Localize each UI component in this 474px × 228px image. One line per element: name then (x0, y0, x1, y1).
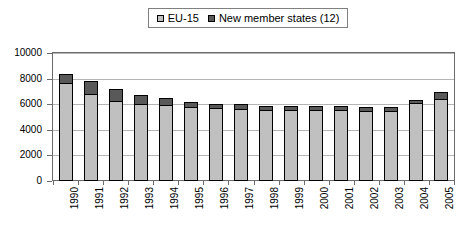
bar-segment-eu15 (334, 111, 348, 181)
bar-segment-eu15 (59, 84, 73, 181)
bar-group (334, 106, 348, 181)
bar-segment-new-member-states (109, 89, 123, 102)
x-tick-mark (153, 181, 154, 185)
x-tick-mark (404, 181, 405, 185)
x-tick-label: 2003 (395, 187, 405, 209)
bar-segment-eu15 (159, 106, 173, 181)
bar-segment-new-member-states (134, 95, 148, 105)
bar-segment-eu15 (184, 108, 198, 181)
x-tick-label: 1998 (270, 187, 280, 209)
bar-group (434, 92, 448, 181)
y-axis: 1000080006000400020000 (0, 52, 48, 181)
x-tick-label: 2002 (370, 187, 380, 209)
x-tick-label: 2001 (345, 187, 355, 209)
legend-label-eu15: EU-15 (168, 13, 199, 24)
x-tick-mark (329, 181, 330, 185)
bar-group (359, 107, 373, 181)
y-tick-label: 2000 (20, 150, 42, 160)
bar-group (309, 106, 323, 181)
x-tick-mark (203, 181, 204, 185)
x-tick-label: 2000 (320, 187, 330, 209)
bar-group (134, 95, 148, 181)
bar-segment-eu15 (134, 105, 148, 181)
bar-group (159, 98, 173, 181)
x-tick-mark (78, 181, 79, 185)
x-tick-label: 1999 (295, 187, 305, 209)
x-tick-mark (228, 181, 229, 185)
x-tick-mark (53, 181, 54, 185)
bar-group (259, 106, 273, 182)
bar-segment-eu15 (309, 111, 323, 181)
y-tick-label: 10000 (14, 48, 42, 58)
x-tick-label: 1990 (70, 187, 80, 209)
bar-segment-new-member-states (59, 74, 73, 85)
x-tick-mark (379, 181, 380, 185)
bar-segment-new-member-states (84, 81, 98, 94)
y-tick-label: 4000 (20, 125, 42, 135)
legend-label-new-member-states: New member states (12) (219, 13, 339, 24)
bar-segment-eu15 (209, 109, 223, 181)
bar-group (384, 107, 398, 181)
y-tick-label: 0 (36, 176, 42, 186)
bar-segment-eu15 (234, 110, 248, 181)
bar-segment-new-member-states (159, 98, 173, 106)
bar-group (234, 104, 248, 181)
bars-layer (53, 53, 454, 181)
bar-segment-new-member-states (434, 92, 448, 100)
y-tick-mark (47, 53, 52, 54)
x-tick-mark (254, 181, 255, 185)
bar-group (209, 104, 223, 181)
x-tick-label: 1995 (195, 187, 205, 209)
x-tick-label: 1992 (120, 187, 130, 209)
y-tick-mark (47, 155, 52, 156)
bar-group (184, 102, 198, 181)
x-tick-mark (429, 181, 430, 185)
bar-segment-eu15 (259, 111, 273, 181)
bar-group (284, 106, 298, 181)
bar-segment-eu15 (284, 111, 298, 181)
y-tick-mark (47, 79, 52, 80)
bar-group (409, 100, 423, 181)
bar-segment-eu15 (359, 112, 373, 181)
x-tick-label: 2004 (420, 187, 430, 209)
legend-swatch-new-member-states (208, 15, 215, 22)
x-tick-mark (454, 181, 455, 185)
bar-segment-eu15 (434, 100, 448, 181)
bar-group (59, 74, 73, 182)
x-tick-label: 1997 (245, 187, 255, 209)
bar-group (84, 81, 98, 181)
y-tick-mark (47, 104, 52, 105)
x-tick-label: 1991 (95, 187, 105, 209)
x-tick-mark (304, 181, 305, 185)
x-axis: 1990199119921993199419951996199719981999… (53, 181, 454, 228)
x-tick-mark (354, 181, 355, 185)
x-tick-label: 1996 (220, 187, 230, 209)
bar-segment-eu15 (409, 104, 423, 181)
x-tick-mark (128, 181, 129, 185)
bar-group (109, 89, 123, 181)
bar-segment-eu15 (109, 102, 123, 181)
bar-segment-eu15 (84, 95, 98, 181)
x-tick-label: 1993 (145, 187, 155, 209)
y-tick-label: 6000 (20, 99, 42, 109)
x-tick-mark (178, 181, 179, 185)
legend-entry-eu15: EU-15 (157, 13, 199, 24)
x-tick-label: 1994 (170, 187, 180, 209)
x-tick-mark (103, 181, 104, 185)
bar-segment-eu15 (384, 112, 398, 181)
y-tick-mark (47, 130, 52, 131)
y-tick-label: 8000 (20, 74, 42, 84)
legend-swatch-eu15 (157, 15, 164, 22)
x-tick-mark (279, 181, 280, 185)
y-tick-mark (47, 181, 52, 182)
chart-legend: EU-15 New member states (12) (148, 8, 348, 28)
x-tick-label: 2005 (445, 187, 455, 209)
stacked-bar-chart: EU-15 New member states (12) 10000800060… (0, 0, 474, 228)
legend-entry-new-member-states: New member states (12) (208, 13, 339, 24)
